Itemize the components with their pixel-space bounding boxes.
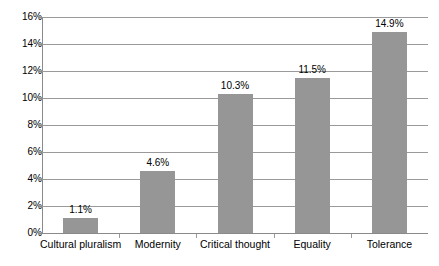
bar-chart: 0%2%4%6%8%10%12%14%16% 1.1%4.6%10.3%11.5… xyxy=(0,0,439,266)
bar-value-label: 11.5% xyxy=(298,64,326,75)
x-axis-category-label: Equality xyxy=(294,238,331,251)
y-axis-tick-label: 16% xyxy=(6,12,42,22)
gridline xyxy=(42,233,428,234)
x-axis-tick-mark xyxy=(274,234,275,238)
y-axis: 0%2%4%6%8%10%12%14%16% xyxy=(0,17,42,233)
x-axis-tick-mark xyxy=(351,234,352,238)
x-axis-category-label: Tolerance xyxy=(367,238,413,251)
x-axis-category-label: Cultural pluralism xyxy=(40,238,121,251)
x-axis-tick-mark xyxy=(119,234,120,238)
y-axis-tick-label: 14% xyxy=(6,39,42,49)
y-axis-tick-label: 8% xyxy=(6,120,42,130)
y-axis-tick-label: 6% xyxy=(6,147,42,157)
y-axis-tick-label: 12% xyxy=(6,66,42,76)
y-axis-tick-label: 0% xyxy=(6,228,42,238)
bar-value-labels: 1.1%4.6%10.3%11.5%14.9% xyxy=(42,17,428,233)
y-axis-tick-label: 4% xyxy=(6,174,42,184)
bar-value-label: 10.3% xyxy=(221,80,249,91)
bar-value-label: 1.1% xyxy=(69,204,92,215)
x-axis-category-labels: Cultural pluralismModernityCritical thou… xyxy=(42,238,428,258)
bar-value-label: 14.9% xyxy=(375,18,403,29)
x-axis-category-label: Modernity xyxy=(135,238,181,251)
bar-value-label: 4.6% xyxy=(146,157,169,168)
y-axis-tick-label: 2% xyxy=(6,201,42,211)
x-axis-tick-mark xyxy=(196,234,197,238)
y-axis-tick-label: 10% xyxy=(6,93,42,103)
plot-area: 1.1%4.6%10.3%11.5%14.9% xyxy=(42,17,428,233)
x-axis-category-label: Critical thought xyxy=(200,238,270,251)
